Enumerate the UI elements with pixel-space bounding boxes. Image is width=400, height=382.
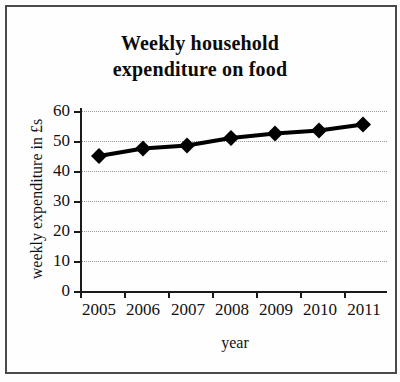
y-tick-50 — [74, 141, 81, 143]
chart-title-line-1: Weekly household — [40, 30, 360, 56]
chart-title-line-2: expenditure on food — [40, 56, 360, 82]
y-tick-label-50: 50 — [30, 131, 70, 151]
y-tick-label-40: 40 — [30, 161, 70, 181]
x-axis-line — [80, 291, 387, 293]
gridline-40 — [80, 171, 387, 172]
x-tick-2009 — [256, 291, 258, 298]
y-tick-label-30: 30 — [30, 191, 70, 211]
x-axis-title: year — [150, 334, 320, 352]
y-tick-40 — [74, 171, 81, 173]
y-tick-10 — [74, 261, 81, 263]
x-tick-label-2011: 2011 — [337, 300, 391, 320]
y-tick-30 — [74, 201, 81, 203]
y-tick-label-10: 10 — [30, 251, 70, 271]
gridline-10 — [80, 261, 387, 262]
gridline-50 — [80, 141, 387, 142]
y-tick-60 — [74, 111, 81, 113]
gridline-60 — [80, 111, 387, 112]
x-tick-2011 — [344, 291, 346, 298]
y-tick-label-60: 60 — [30, 101, 70, 121]
x-tick-2007 — [168, 291, 170, 298]
x-tick-2010 — [300, 291, 302, 298]
x-tick-2006 — [124, 291, 126, 298]
plot-area — [80, 108, 387, 294]
chart-page: Weekly household expenditure on food wee… — [0, 0, 400, 382]
x-tick-2008 — [212, 291, 214, 298]
chart-title: Weekly household expenditure on food — [40, 30, 360, 82]
y-tick-label-0: 0 — [30, 281, 70, 301]
gridline-20 — [80, 231, 387, 232]
y-tick-20 — [74, 231, 81, 233]
y-tick-label-20: 20 — [30, 221, 70, 241]
gridline-30 — [80, 201, 387, 202]
x-tick-2005 — [80, 291, 82, 298]
